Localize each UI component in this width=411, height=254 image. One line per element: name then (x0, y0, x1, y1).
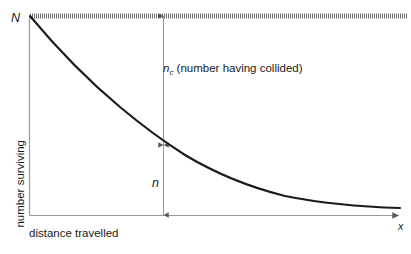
collided-label: nc (number having collided) (163, 63, 303, 77)
surviving-label: n (152, 177, 159, 190)
initial-value-label: N (11, 12, 20, 25)
plot-canvas (0, 0, 411, 254)
decay-curve (30, 16, 400, 208)
collided-description: (number having collided) (177, 62, 303, 74)
collided-subscript: c (169, 68, 173, 77)
dotted-line-icon (30, 14, 408, 19)
exponential-decay-figure: N nc (number having collided) n x distan… (0, 0, 411, 254)
x-axis-caption: distance travelled (29, 228, 119, 240)
x-axis-tip-label: x (398, 221, 403, 232)
y-axis-caption: number surviving (15, 134, 27, 234)
